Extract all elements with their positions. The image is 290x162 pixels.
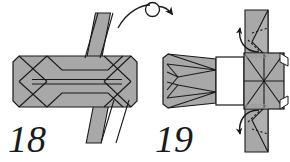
step-19-number: 19 — [155, 118, 193, 160]
step19-right-creases — [244, 53, 284, 109]
diagram-canvas: 18 — [0, 0, 290, 162]
step19-left-body — [163, 54, 216, 108]
step18-body — [13, 56, 137, 107]
step-18-number: 18 — [8, 118, 46, 160]
step19-white-panel — [216, 57, 244, 105]
step19-upper-overlap — [245, 53, 268, 58]
step19-lower-overlap — [245, 104, 268, 109]
origami-diagram: 18 — [0, 0, 290, 162]
